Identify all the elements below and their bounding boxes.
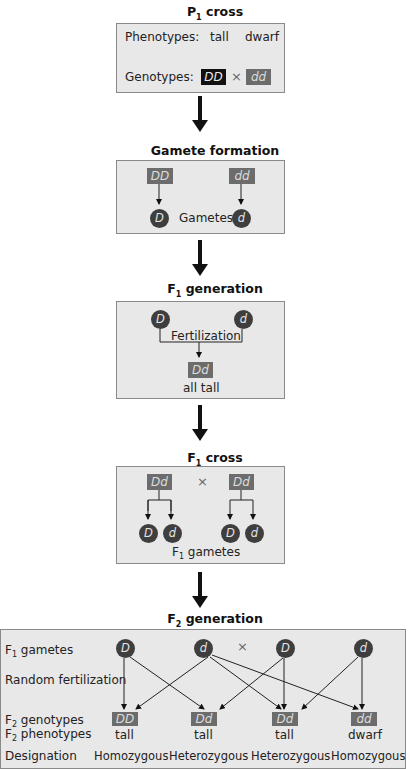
connector-lines bbox=[0, 0, 410, 766]
